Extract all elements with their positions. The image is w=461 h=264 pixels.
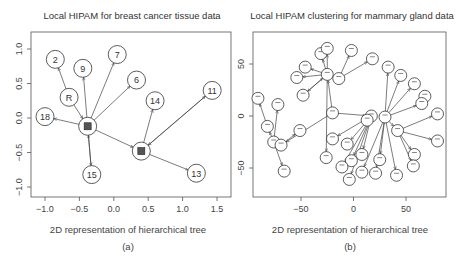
tree-node [366, 53, 378, 65]
edge-arrow [306, 78, 323, 93]
node-circle [432, 108, 444, 120]
node-label: R [66, 93, 73, 103]
x-tick-label: 0.5 [142, 204, 155, 214]
node-circle [395, 69, 407, 81]
node-circle [408, 78, 420, 90]
tree-node [356, 166, 368, 178]
tree-node [261, 120, 273, 132]
x-tick-label: −50 [293, 204, 308, 214]
tree-node [327, 133, 339, 145]
figure-canvas: Local HIPAM for breast cancer tissue dat… [0, 0, 461, 264]
node-circle [361, 114, 373, 126]
tree-node [379, 111, 391, 123]
y-tick-label: −1.0 [14, 178, 24, 196]
tree-node: 11 [203, 81, 221, 99]
edge-arrow [342, 62, 367, 77]
panel-b-x-axis-label: 2D representation of hierarchical tree [272, 224, 428, 235]
node-label: 2 [53, 55, 58, 65]
tree-node [395, 69, 407, 81]
tree-node [432, 108, 444, 120]
tree-node: 13 [187, 164, 205, 182]
tree-node [79, 117, 97, 135]
tree-node [391, 169, 403, 181]
y-tick-label: 0.0 [14, 112, 24, 125]
panel-a-x-axis: −1.0−0.50.00.51.01.5 [36, 197, 223, 214]
tree-node [345, 44, 357, 56]
panel-a-title: Local HIPAM for breast cancer tissue dat… [43, 10, 221, 21]
node-circle [327, 107, 339, 119]
node-label: 15 [87, 170, 97, 180]
node-circle [299, 61, 311, 73]
node-circle [252, 92, 264, 104]
y-tick-label: 50 [236, 59, 246, 69]
node-circle [374, 154, 386, 166]
node-circle [432, 135, 444, 147]
panel-a-y-axis: 1.00.50.0−0.5−1.0 [14, 43, 31, 196]
tree-node [356, 148, 368, 160]
tree-node [333, 73, 345, 85]
node-label: 13 [191, 169, 201, 179]
node-circle [408, 148, 420, 160]
edge-arrow [88, 135, 91, 169]
node-label: 11 [208, 86, 217, 96]
tree-node [294, 125, 306, 137]
tree-node: 18 [36, 108, 54, 126]
x-tick-label: −1.0 [36, 204, 54, 214]
x-tick-label: 0.0 [108, 204, 121, 214]
tree-node: 2 [46, 50, 64, 68]
edge-arrow [84, 77, 88, 121]
panel-a-caption: (a) [122, 241, 134, 252]
y-tick-label: 0.5 [14, 77, 24, 90]
tree-node [343, 173, 355, 185]
tree-node [132, 142, 150, 160]
node-circle [341, 138, 353, 150]
node-circle [291, 72, 303, 84]
node-circle [345, 44, 357, 56]
x-tick-label: −0.5 [71, 204, 89, 214]
panel-a-x-axis-label: 2D representation of hierarchical tree [50, 224, 206, 235]
edge-arrow [340, 56, 349, 75]
edge-arrow [146, 153, 188, 170]
node-circle [366, 53, 378, 65]
tree-node [321, 68, 333, 80]
tree-node: 7 [108, 46, 126, 64]
x-tick-label: 50 [401, 204, 411, 214]
y-tick-label: 0 [236, 113, 246, 118]
node-circle [333, 73, 345, 85]
node-label: 9 [80, 64, 85, 74]
edge-arrow [385, 73, 388, 113]
tree-node [278, 165, 290, 177]
node-circle [336, 161, 348, 173]
edge-arrow [54, 119, 83, 125]
node-circle [297, 89, 309, 101]
node-label: 18 [40, 112, 50, 122]
edge-arrow [93, 129, 134, 148]
panel-b: Local HIPAM clustering for mammary gland… [236, 10, 455, 252]
tree-node: 9 [74, 59, 92, 77]
node-circle [321, 68, 333, 80]
tree-node [272, 99, 284, 111]
tree-node [361, 114, 373, 126]
tree-node [252, 92, 264, 104]
node-circle [392, 125, 404, 137]
tree-node: 6 [128, 71, 146, 89]
node-circle [327, 133, 339, 145]
hub-marker [84, 123, 91, 130]
panel-b-title: Local HIPAM clustering for mammary gland… [250, 10, 454, 21]
tree-node [407, 160, 419, 172]
tree-node [336, 161, 348, 173]
node-circle [275, 139, 287, 151]
panel-a-nodes: R29761815141113 [36, 46, 221, 184]
node-circle [370, 167, 382, 179]
tree-node [291, 72, 303, 84]
edge-arrow [401, 116, 432, 129]
tree-node [416, 98, 428, 110]
edge-arrow [274, 111, 277, 139]
tree-node: R [60, 88, 78, 106]
tree-node [321, 42, 333, 54]
tree-node [374, 154, 386, 166]
tree-node [408, 148, 420, 160]
node-circle [382, 61, 394, 73]
tree-node [297, 89, 309, 101]
node-circle [278, 165, 290, 177]
